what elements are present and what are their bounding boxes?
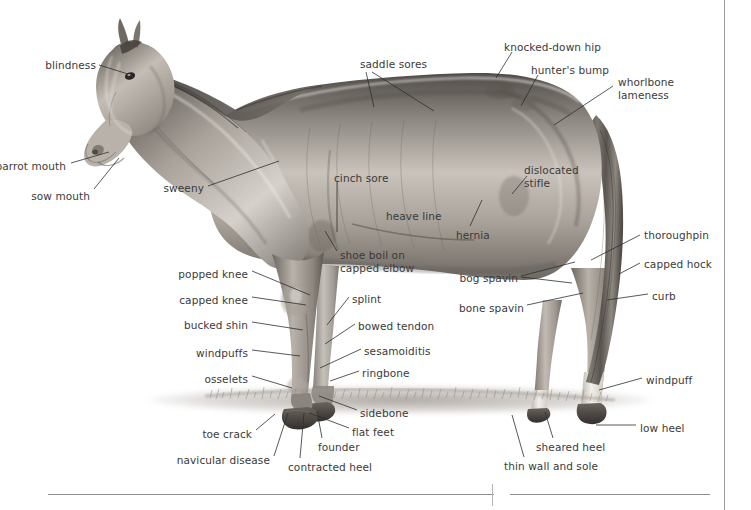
- leader-thoroughpin: [591, 235, 640, 260]
- leader-windpuff: [599, 378, 642, 390]
- label-windpuffs: windpuffs: [182, 347, 248, 360]
- leader-knocked-down-hip: [496, 52, 512, 78]
- label-whorlbone-lameness: whorlbone lameness: [618, 76, 690, 102]
- leader-flat-feet: [309, 413, 349, 428]
- leader-bowed-tendon: [325, 324, 355, 344]
- rule-left: [48, 494, 494, 495]
- leader-bog-spavin-a: [521, 262, 575, 276]
- label-navicular-disease: navicular disease: [174, 454, 270, 467]
- label-bowed-tendon: bowed tendon: [358, 320, 438, 333]
- leader-saddle-sores-a: [366, 72, 374, 107]
- label-thin-wall-and-sole: thin wall and sole: [504, 460, 604, 473]
- leader-contracted-heel: [300, 413, 304, 458]
- leader-windpuffs: [252, 350, 300, 356]
- label-capped-hock: capped hock: [644, 258, 716, 271]
- label-thoroughpin: thoroughpin: [644, 229, 712, 242]
- label-parrot-mouth: parrot mouth: [0, 160, 66, 173]
- leader-shoe-boil: [325, 231, 337, 251]
- leader-sesamoiditis: [320, 349, 361, 368]
- leader-bog-spavin-b: [521, 277, 572, 283]
- leader-popped-knee: [252, 271, 310, 295]
- leader-sidebone: [319, 396, 357, 410]
- leader-thin-wall: [512, 415, 524, 457]
- leader-sheared-heel: [545, 412, 553, 438]
- leader-bucked-shin: [252, 322, 303, 330]
- diagram-page: blindnessparrot mouthsow mouthsweenysadd…: [0, 0, 751, 510]
- leader-bone-spavin: [527, 293, 583, 305]
- label-dislocated-stifle: dislocated stifle: [524, 164, 586, 190]
- label-sidebone: sidebone: [360, 407, 412, 420]
- label-hernia: hernia: [456, 229, 496, 242]
- label-contracted-heel: contracted heel: [288, 461, 378, 474]
- leader-blindness: [99, 65, 128, 74]
- label-sesamoiditis: sesamoiditis: [364, 345, 436, 358]
- label-cinch-sore: cinch sore: [334, 172, 394, 185]
- label-flat-feet: flat feet: [352, 426, 400, 439]
- label-knocked-down-hip: knocked-down hip: [504, 41, 608, 54]
- label-toe-crack: toe crack: [196, 428, 252, 441]
- label-shoe-boil: shoe boil on capped elbow: [340, 249, 422, 275]
- rule-right: [510, 494, 710, 495]
- leader-founder: [317, 411, 322, 438]
- label-osselets: osselets: [192, 373, 248, 386]
- divider-column-tick: [492, 484, 493, 506]
- label-ringbone: ringbone: [362, 367, 414, 380]
- leader-hunters-bump: [521, 75, 538, 106]
- label-hunters-bump: hunter's bump: [531, 64, 615, 77]
- label-saddle-sores: saddle sores: [360, 58, 432, 71]
- leader-hernia: [470, 200, 482, 226]
- leader-ringbone: [330, 371, 359, 381]
- leader-splint: [327, 297, 349, 325]
- label-bog-spavin: bog spavin: [456, 272, 518, 285]
- label-capped-knee: capped knee: [170, 294, 248, 307]
- label-bucked-shin: bucked shin: [170, 319, 248, 332]
- label-blindness: blindness: [40, 59, 96, 72]
- label-popped-knee: popped knee: [172, 268, 248, 281]
- leader-osselets: [252, 376, 292, 388]
- label-sheared-heel: sheared heel: [536, 441, 612, 454]
- label-low-heel: low heel: [640, 422, 688, 435]
- leader-whorlbone: [554, 86, 613, 125]
- leader-sweeny: [208, 161, 279, 186]
- label-sweeny: sweeny: [160, 182, 204, 195]
- leader-parrot-mouth: [71, 152, 109, 163]
- divider-right-margin: [724, 0, 725, 510]
- leader-capped-knee: [252, 297, 306, 305]
- leader-capped-hock: [619, 263, 640, 274]
- leader-sow-mouth: [94, 158, 119, 189]
- label-founder: founder: [318, 441, 366, 454]
- leader-navicular-disease: [274, 413, 288, 456]
- leader-saddle-sores-b: [372, 72, 434, 111]
- label-bone-spavin: bone spavin: [456, 302, 524, 315]
- label-splint: splint: [352, 293, 388, 306]
- label-heave-line: heave line: [386, 210, 448, 223]
- leader-curb: [607, 294, 648, 300]
- label-windpuff: windpuff: [646, 374, 698, 387]
- label-sow-mouth: sow mouth: [28, 190, 90, 203]
- label-curb: curb: [652, 290, 680, 303]
- leader-toe-crack: [256, 414, 275, 430]
